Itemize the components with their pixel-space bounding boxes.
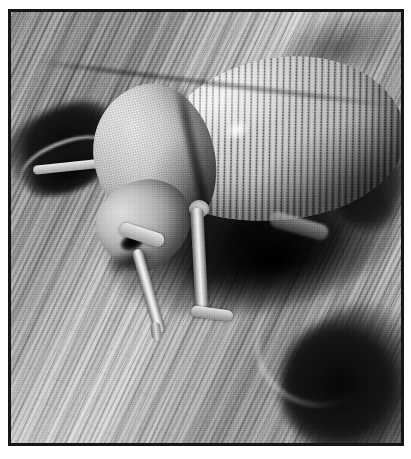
photograph [11, 12, 401, 443]
photo-frame [8, 9, 404, 446]
beetle [11, 12, 401, 443]
page-canvas [0, 0, 411, 459]
